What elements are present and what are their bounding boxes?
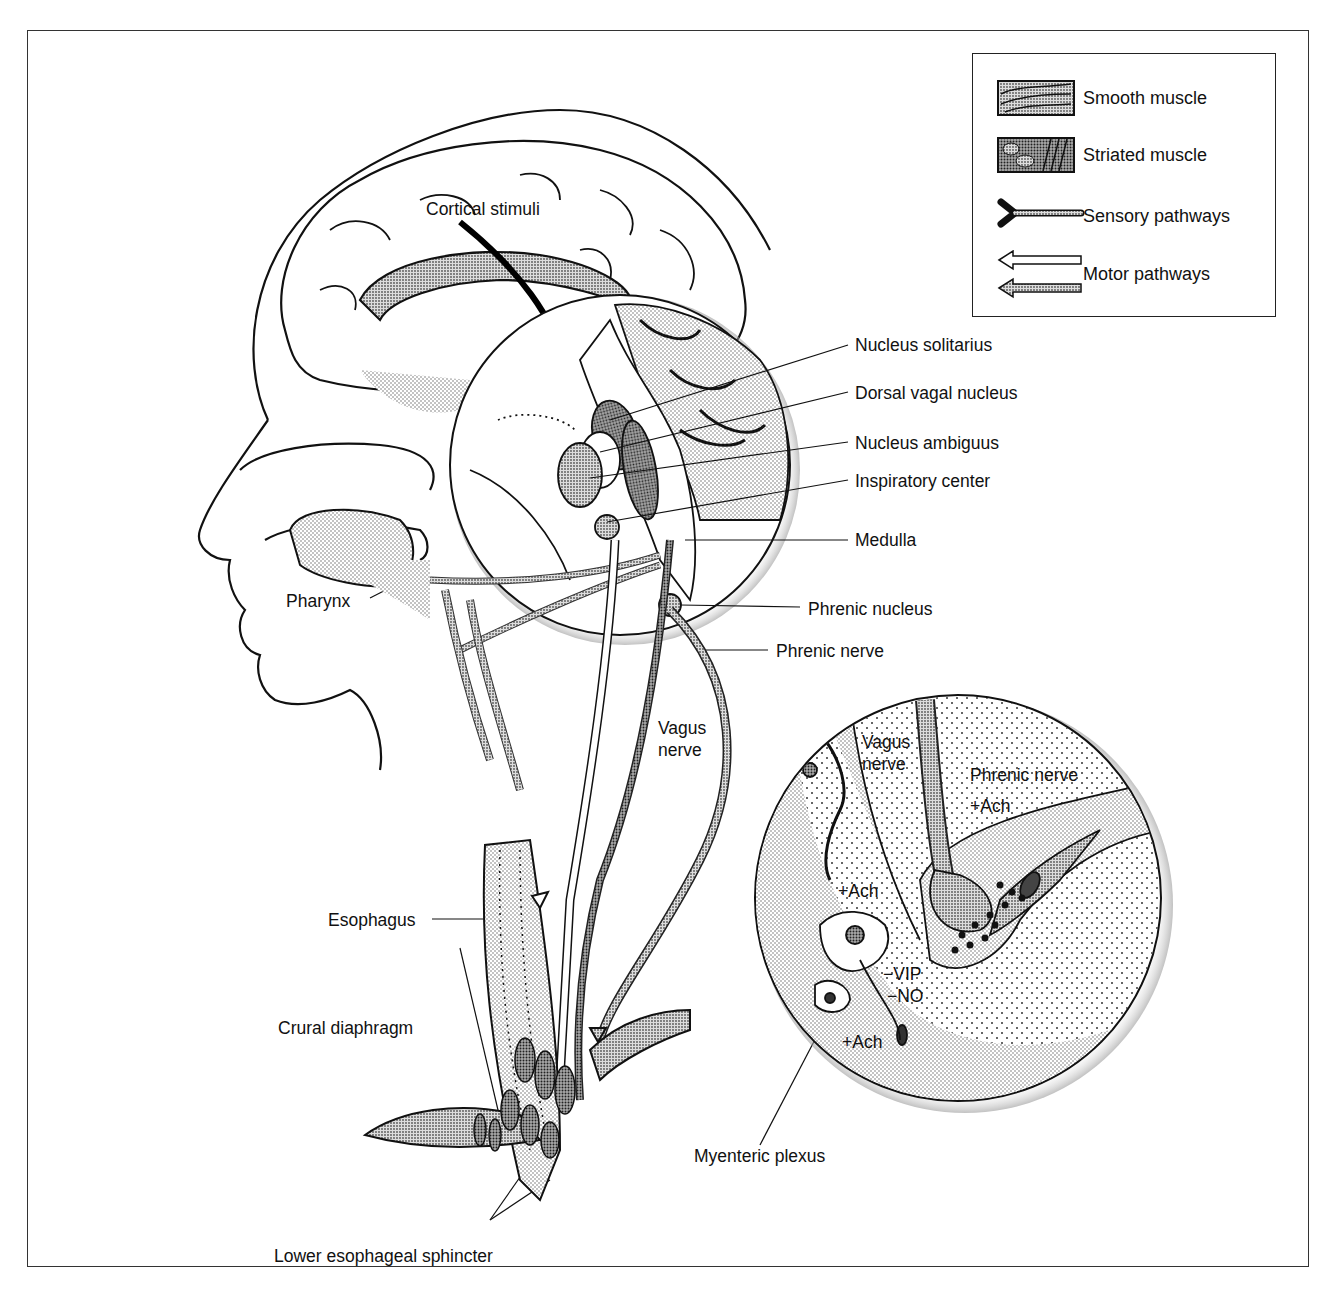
- inspiratory-center-shape: [595, 515, 619, 539]
- label-nucleus-solitarius: Nucleus solitarius: [855, 335, 992, 355]
- esophagus: [365, 840, 690, 1200]
- inset-label-vip: −VIP: [883, 964, 921, 984]
- label-medulla: Medulla: [855, 530, 916, 550]
- label-pharynx: Pharynx: [286, 591, 350, 611]
- legend-item-sensory-pathways: Sensory pathways: [973, 198, 1275, 238]
- striated-muscle-swatch-icon: [997, 137, 1075, 173]
- label-phrenic-nerve: Phrenic nerve: [776, 641, 884, 661]
- label-crural-diaphragm: Crural diaphragm: [278, 1018, 413, 1038]
- label-nucleus-ambiguus: Nucleus ambiguus: [855, 433, 999, 453]
- motor-pathway-arrows-icon: [997, 250, 1087, 302]
- label-phrenic-nucleus: Phrenic nucleus: [808, 599, 933, 619]
- nucleus-solitarius-shape: [558, 443, 602, 507]
- label-myenteric-plexus: Myenteric plexus: [694, 1146, 825, 1166]
- legend-label: Motor pathways: [1083, 264, 1210, 285]
- inset-label-ach-lower: +Ach: [842, 1032, 882, 1052]
- legend-label: Sensory pathways: [1083, 206, 1230, 227]
- inset-label-vagus-line2: nerve: [862, 754, 906, 774]
- legend-item-smooth-muscle: Smooth muscle: [973, 80, 1275, 120]
- legend-label: Striated muscle: [1083, 145, 1207, 166]
- label-esophagus: Esophagus: [328, 910, 416, 930]
- legend: Smooth muscle Striated muscle Sensory pa…: [972, 53, 1276, 317]
- inset-label-no: −NO: [887, 986, 923, 1006]
- inset-label-ach-vagal: +Ach: [838, 881, 878, 901]
- label-dorsal-vagal-nucleus: Dorsal vagal nucleus: [855, 383, 1017, 403]
- sensory-pathway-symbol-icon: [997, 198, 1087, 228]
- inset-label-phrenic-nerve: Phrenic nerve: [970, 765, 1078, 785]
- legend-label: Smooth muscle: [1083, 88, 1207, 109]
- label-lower-esophageal-sphincter: Lower esophageal sphincter: [274, 1246, 493, 1266]
- legend-item-motor-pathways: Motor pathways: [973, 250, 1275, 300]
- label-vagus-nerve-line2: nerve: [658, 740, 702, 760]
- inset-label-ach-phrenic: +Ach: [970, 796, 1010, 816]
- smooth-muscle-swatch-icon: [997, 80, 1075, 116]
- inset-label-vagus-line1: Vagus: [862, 732, 910, 752]
- legend-item-striated-muscle: Striated muscle: [973, 137, 1275, 177]
- label-vagus-nerve-line1: Vagus: [658, 718, 706, 738]
- label-cortical-stimuli: Cortical stimuli: [426, 199, 540, 219]
- label-inspiratory-center: Inspiratory center: [855, 471, 990, 491]
